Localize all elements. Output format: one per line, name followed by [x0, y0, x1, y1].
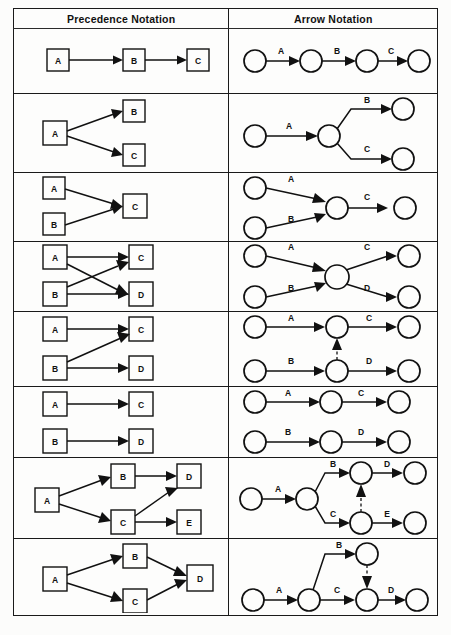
table-row: A B C D [14, 539, 438, 616]
table-row: A B C D [14, 387, 438, 458]
svg-text:B: B [334, 46, 340, 56]
svg-text:A: A [276, 585, 282, 595]
arrow-cell-row-8: A B C D [229, 539, 438, 616]
precedence-diagram-row-5: A B C D [14, 312, 228, 386]
table-row: A B C [14, 94, 438, 173]
precedence-diagram-row-7: A B C D E [14, 458, 228, 538]
svg-text:A: A [51, 184, 57, 194]
precedence-diagram-row-8: A B C D [14, 539, 228, 615]
svg-text:C: C [131, 151, 137, 161]
svg-text:A: A [288, 174, 294, 184]
arrow-cell-row-7: A B C D E [229, 458, 438, 539]
arrow-diagram-row-5: A C B D [229, 313, 437, 385]
svg-text:B: B [52, 364, 58, 374]
svg-text:C: C [358, 388, 364, 398]
precedence-diagram-row-6: A B C D [14, 387, 228, 457]
precedence-cell-row-1: A B C [14, 29, 229, 94]
svg-text:B: B [285, 427, 291, 437]
svg-text:D: D [138, 364, 144, 374]
svg-text:B: B [330, 459, 336, 469]
arrow-diagram-row-6: A C B D [229, 388, 437, 456]
svg-text:C: C [364, 144, 370, 154]
notation-comparison-table: Precedence Notation Arrow Notation A B C [13, 8, 438, 616]
svg-text:A: A [52, 129, 58, 139]
table-header-row: Precedence Notation Arrow Notation [14, 9, 438, 29]
arrow-cell-row-2: A B C [229, 94, 438, 173]
precedence-cell-row-7: A B C D E [14, 458, 229, 539]
arrow-diagram-row-4: A B C D [229, 243, 437, 310]
precedence-diagram-row-2: A B C [14, 94, 228, 172]
arrow-cell-row-5: A C B D [229, 312, 438, 387]
svg-text:B: B [131, 107, 137, 117]
precedence-cell-row-8: A B C D [14, 539, 229, 616]
svg-text:A: A [44, 496, 50, 506]
arrow-cell-row-1: A B C [229, 29, 438, 94]
svg-text:B: B [288, 214, 294, 224]
arrow-cell-row-4: A B C D [229, 242, 438, 312]
svg-text:B: B [52, 437, 58, 447]
svg-text:A: A [55, 56, 61, 66]
arrow-diagram-row-7: A B C D E [229, 459, 437, 537]
svg-text:C: C [330, 509, 336, 519]
svg-text:C: C [120, 518, 126, 528]
arrow-diagram-row-8: A B C D [229, 540, 437, 614]
precedence-cell-row-3: A B C [14, 173, 229, 242]
svg-text:C: C [138, 325, 144, 335]
svg-text:A: A [52, 575, 58, 585]
svg-text:D: D [186, 472, 192, 482]
precedence-diagram-row-1: A B C [14, 29, 228, 93]
svg-text:D: D [364, 283, 370, 293]
svg-text:D: D [138, 437, 144, 447]
svg-text:B: B [336, 540, 342, 550]
table-row: A B C [14, 173, 438, 242]
svg-text:C: C [132, 202, 138, 212]
svg-text:D: D [138, 290, 144, 300]
precedence-cell-row-6: A B C D [14, 387, 229, 458]
precedence-cell-row-4: A B C D [14, 242, 229, 312]
svg-text:A: A [288, 313, 294, 323]
svg-text:A: A [288, 243, 294, 252]
svg-text:C: C [366, 313, 372, 323]
svg-text:D: D [358, 427, 364, 437]
svg-text:E: E [186, 518, 192, 528]
svg-text:A: A [275, 484, 281, 494]
svg-text:B: B [288, 356, 294, 366]
svg-text:B: B [288, 283, 294, 293]
svg-text:D: D [366, 356, 372, 366]
svg-text:D: D [197, 574, 203, 584]
precedence-diagram-row-3: A B C [14, 173, 228, 241]
svg-text:B: B [120, 472, 126, 482]
precedence-cell-row-5: A B C D [14, 312, 229, 387]
precedence-diagram-row-4: A B C D [14, 242, 228, 311]
arrow-diagram-row-3: A B C [229, 174, 437, 240]
svg-text:C: C [195, 56, 201, 66]
svg-text:A: A [52, 253, 58, 263]
arrow-diagram-row-2: A B C [229, 95, 437, 171]
svg-text:A: A [52, 325, 58, 335]
svg-text:B: B [364, 95, 370, 105]
svg-text:A: A [52, 400, 58, 410]
svg-text:B: B [131, 56, 137, 66]
svg-text:C: C [132, 597, 138, 607]
svg-text:B: B [52, 290, 58, 300]
svg-text:C: C [138, 253, 144, 263]
svg-text:C: C [364, 243, 370, 252]
table-row: A B C D [14, 312, 438, 387]
arrow-cell-row-3: A B C [229, 173, 438, 242]
column-header-arrow: Arrow Notation [229, 9, 438, 29]
svg-text:D: D [388, 585, 394, 595]
svg-text:C: C [388, 46, 394, 56]
svg-text:B: B [132, 552, 138, 562]
header-double-rule [13, 28, 438, 29]
figure-sheet: Precedence Notation Arrow Notation A B C [0, 0, 451, 635]
table-row: A B C D E [14, 458, 438, 539]
table-row: A B C [14, 29, 438, 94]
svg-text:D: D [384, 459, 390, 469]
svg-text:C: C [138, 400, 144, 410]
arrow-cell-row-6: A C B D [229, 387, 438, 458]
column-header-precedence: Precedence Notation [14, 9, 229, 29]
svg-text:C: C [334, 585, 340, 595]
arrow-diagram-row-1: A B C [229, 30, 437, 92]
svg-text:A: A [278, 46, 284, 56]
svg-text:C: C [364, 192, 370, 202]
